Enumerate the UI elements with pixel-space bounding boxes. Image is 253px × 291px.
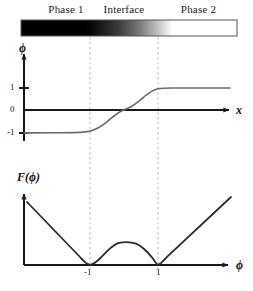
ytick-label-zero: 0 — [10, 104, 15, 114]
axis-label-phi-horizontal: ϕ — [236, 258, 243, 273]
double-well-curve — [27, 197, 231, 265]
axis-label-phi-vertical: ϕ — [19, 41, 26, 56]
ytick-label-plus-one: 1 — [10, 82, 15, 92]
phase-label-phase2: Phase 2 — [160, 3, 237, 15]
axis-label-free-energy: F(ϕ) — [17, 170, 40, 185]
axis-label-x: x — [236, 103, 242, 118]
phi-profile-plot — [19, 54, 230, 141]
interface-guides — [90, 37, 158, 272]
phase-gradient-bar — [21, 20, 237, 36]
free-energy-plot — [24, 194, 231, 265]
xtick-label-plus-one: 1 — [156, 267, 161, 277]
xtick-label-minus-one: -1 — [84, 267, 92, 277]
gradient-bar-rect — [21, 20, 237, 36]
ytick-label-minus-one: -1 — [7, 127, 15, 137]
phase-label-interface: Interface — [88, 3, 160, 15]
phase-field-figure: Phase 1 Interface Phase 2 ϕ x 1 0 -1 F(ϕ… — [0, 0, 253, 291]
figure-canvas — [0, 0, 253, 291]
